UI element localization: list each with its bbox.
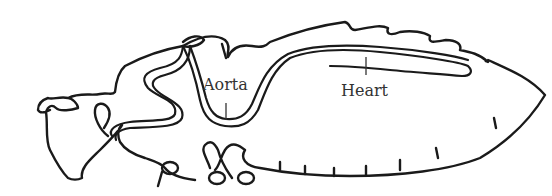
legs xyxy=(158,162,254,186)
head-lobe xyxy=(95,104,110,136)
heart-label: Heart xyxy=(341,83,388,99)
aorta-vessel-outer xyxy=(111,46,183,136)
abdominal-segment-ticks xyxy=(280,118,496,176)
thoracic-notch xyxy=(222,44,226,58)
body-outline xyxy=(38,22,545,180)
insect-dorsal-vessel-diagram xyxy=(0,0,552,196)
aorta-label: Aorta xyxy=(203,77,248,93)
